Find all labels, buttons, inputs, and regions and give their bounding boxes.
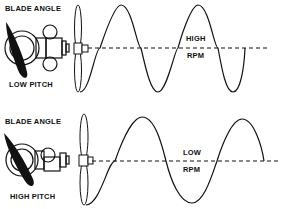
- pitch-label: HIGH PITCH: [10, 192, 55, 201]
- blade-section-icon: [6, 22, 27, 78]
- low-pitch-panel: BLADE ANGLE LOW PITCH HIGH RPM: [0, 0, 281, 105]
- propeller-icon: [79, 114, 93, 205]
- blade-angle-label: BLADE ANGLE: [5, 4, 61, 13]
- rpm-bottom-label: RPM: [183, 165, 200, 174]
- high-pitch-panel: BLADE ANGLE HIGH PITCH LOW RPM: [0, 105, 281, 209]
- rpm-top-label: HIGH: [186, 34, 206, 43]
- blade-angle-label: BLADE ANGLE: [5, 117, 61, 126]
- rpm-top-label: LOW: [183, 148, 201, 157]
- rpm-bottom-label: RPM: [187, 51, 204, 60]
- propeller-icon: [74, 5, 88, 92]
- low-pitch-diagram: [0, 0, 281, 105]
- helix-path-wave: [86, 117, 264, 205]
- pitch-label: LOW PITCH: [9, 80, 53, 89]
- blade-section-icon: [4, 133, 34, 186]
